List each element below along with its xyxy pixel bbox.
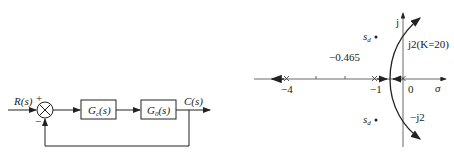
pole-minus1: [372, 76, 377, 81]
gc-label: Gc(s): [88, 104, 111, 118]
root-locus-plot: σ j −4 −1 0 −0.465 j2(K=20) −j2 sd sd: [254, 13, 449, 147]
sd-upper-label: sd: [363, 30, 371, 44]
tick-label-minus1: −1: [370, 83, 382, 95]
breakaway-label: −0.465: [329, 51, 360, 63]
output-label: C(s): [184, 95, 203, 108]
lower-crossing-label: −j2: [410, 111, 425, 123]
pole-minus4: [284, 76, 289, 81]
j-label: j: [395, 16, 399, 28]
minus-sign: −: [35, 115, 41, 127]
sd-upper-point: [375, 36, 378, 39]
input-label: R(s): [13, 95, 33, 108]
block-diagram: R(s) + − Gc(s) G0(s) C(s): [8, 92, 210, 146]
plus-sign: +: [36, 92, 42, 104]
sd-lower-point: [375, 119, 378, 122]
lower-branch: [390, 79, 420, 139]
upper-crossing-label: j2(K=20): [407, 38, 449, 51]
tick-label-zero: 0: [408, 83, 414, 95]
g0-label: G0(s): [147, 104, 170, 118]
tick-label-minus4: −4: [281, 83, 293, 95]
sd-lower-label: sd: [363, 113, 371, 127]
figure: R(s) + − Gc(s) G0(s) C(s) σ j: [0, 0, 454, 160]
sigma-label: σ: [435, 82, 441, 94]
